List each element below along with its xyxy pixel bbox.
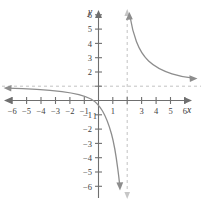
right-branch-arrow-right [189, 75, 197, 82]
x-tick-label-5: 5 [168, 106, 172, 116]
left-branch-arrow-down [116, 182, 123, 190]
x-tick-label-1: 1 [111, 106, 115, 116]
y-tick-label--4: −4 [83, 153, 93, 163]
x-tick-label--6: −6 [8, 106, 17, 116]
asymptote-group [2, 9, 201, 199]
y-tick-label--3: −3 [83, 139, 92, 149]
y-tick-label--5: −5 [83, 167, 92, 177]
y-tick-label-5: 5 [88, 24, 92, 34]
y-tick-label-3: 3 [88, 53, 92, 63]
x-tick-label--2: −2 [65, 106, 74, 116]
coordinate-plane: −6 −5 −4 −3 −2 −1 1 3 4 5 6 6 5 4 3 2 −1… [0, 0, 203, 205]
y-tick-label--2: −2 [83, 124, 92, 134]
x-tick-label--5: −5 [22, 106, 31, 116]
origin-label-1: 1 [93, 111, 97, 121]
right-branch-group [126, 12, 198, 82]
x-tick-label-4: 4 [154, 106, 159, 116]
y-tick-label--1: −1 [83, 110, 92, 120]
y-axis-arrow-up [95, 10, 102, 18]
left-branch-curve [7, 88, 120, 184]
x-tick-label--4: −4 [36, 106, 46, 116]
right-branch-curve [130, 18, 191, 78]
x-axis-label: x [186, 105, 192, 115]
y-tick-label--6: −6 [83, 182, 92, 192]
y-tick-label-4: 4 [88, 39, 93, 49]
y-axis-label: y [87, 7, 93, 17]
x-tick-label--3: −3 [51, 106, 60, 116]
vertical-asymptote-arrow-down [124, 192, 130, 199]
graph-figure: −6 −5 −4 −3 −2 −1 1 3 4 5 6 6 5 4 3 2 −1… [0, 0, 203, 205]
x-tick-label-3: 3 [139, 106, 143, 116]
x-axis-arrow-left [4, 97, 12, 104]
y-tick-label-2: 2 [88, 67, 92, 77]
